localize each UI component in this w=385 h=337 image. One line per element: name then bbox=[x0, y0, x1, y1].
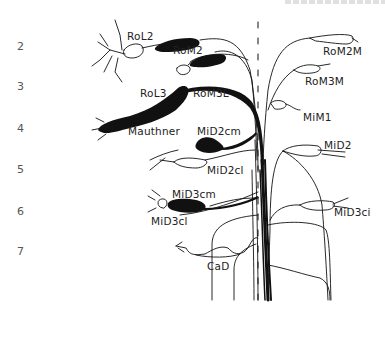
label-mid2cm: MiD2cm bbox=[197, 125, 241, 137]
label-rol3: RoL3 bbox=[140, 87, 167, 99]
label-mid3cm: MiD3cm bbox=[172, 188, 216, 200]
label-rom2m: RoM2M bbox=[323, 45, 362, 57]
label-mid2: MiD2 bbox=[324, 139, 352, 151]
label-rom3l: RoM3L bbox=[193, 87, 229, 99]
label-mid3cl: MiD3cl bbox=[151, 215, 188, 227]
label-mim1: MiM1 bbox=[303, 111, 332, 123]
label-mauthner: Mauthner bbox=[128, 125, 180, 137]
label-rol2: RoL2 bbox=[127, 30, 154, 42]
neuron-diagram: 2 3 4 5 6 7 bbox=[0, 0, 385, 337]
label-rom3m: RoM3M bbox=[305, 75, 344, 87]
label-mid2cl: MiD2cl bbox=[207, 164, 244, 176]
label-cad: CaD bbox=[207, 260, 229, 272]
label-rom2: RoM2 bbox=[173, 44, 203, 56]
label-mid3ci: MiD3ci bbox=[334, 206, 371, 218]
